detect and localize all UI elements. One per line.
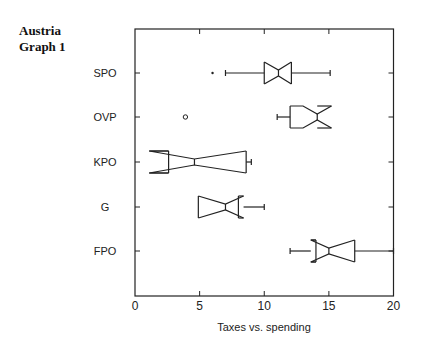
boxes [149,62,393,262]
x-tick-label: 20 [387,299,401,313]
category-label: FPO [94,245,117,257]
category-labels: SPOOVPKPOGFPO [93,67,117,257]
x-tick-label: 5 [196,299,203,313]
x-tick-label: 0 [132,299,139,313]
category-label: OVP [93,111,116,123]
category-label: KPO [93,156,117,168]
box-kpo [149,151,251,173]
x-tick-label: 10 [258,299,272,313]
category-label: G [101,201,110,213]
box-g [198,196,264,218]
boxplot-chart: 05101520 SPOOVPKPOGFPO Taxes vs. spendin… [0,0,421,338]
box-fpo [290,240,393,262]
box-outline [290,106,331,128]
box-outline [198,196,243,218]
box-ovp [183,106,331,128]
x-tick-label: 15 [322,299,336,313]
box-outline [264,62,291,84]
x-tick-labels: 05101520 [132,299,401,313]
box-outline [311,240,355,262]
box-outline [149,151,246,173]
category-label: SPO [93,67,117,79]
x-axis-title: Taxes vs. spending [217,321,311,333]
outlier-dot [211,72,213,74]
outlier-circle [183,115,187,119]
box-spo [211,62,330,84]
